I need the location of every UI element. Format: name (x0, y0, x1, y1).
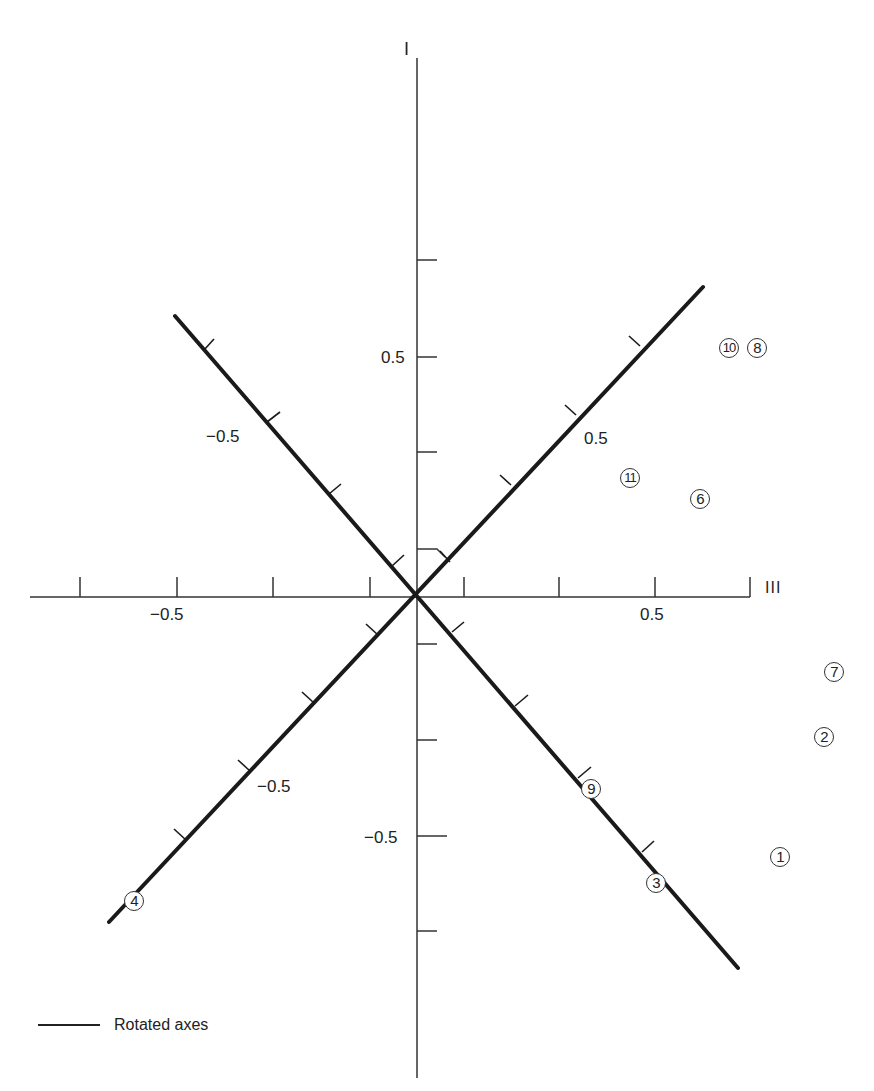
point-11: 11 (620, 468, 640, 488)
factor-plot (0, 0, 874, 1091)
axis-label-I: I (404, 40, 409, 58)
tick-label-rot-upright: 0.5 (584, 430, 608, 447)
point-2: 2 (814, 727, 834, 747)
legend-label: Rotated axes (114, 1016, 208, 1034)
point-3: 3 (646, 873, 666, 893)
tick-label-III-neg: −0.5 (150, 606, 184, 623)
point-7: 7 (824, 662, 844, 682)
tick-label-rot-downleft: −0.5 (257, 778, 291, 795)
point-10: 10 (719, 338, 739, 358)
legend-line-swatch (38, 1024, 100, 1027)
point-6: 6 (690, 489, 710, 509)
rotated-axis-diag-up-ticks (174, 336, 640, 840)
rotated-axis-diag-down-ticks (204, 339, 654, 852)
tick-label-I-pos: 0.5 (381, 349, 405, 366)
point-4: 4 (124, 891, 144, 911)
axis-label-III: III (765, 580, 781, 596)
legend: Rotated axes (38, 1016, 208, 1034)
point-9: 9 (581, 779, 601, 799)
tick-label-III-pos: 0.5 (640, 606, 664, 623)
axis-I-ticks (417, 260, 447, 931)
rotated-axis-diag-down (175, 316, 738, 968)
tick-label-I-neg: −0.5 (364, 829, 398, 846)
tick-label-rot-upleft: −0.5 (206, 428, 240, 445)
point-8: 8 (747, 338, 767, 358)
point-1: 1 (770, 847, 790, 867)
